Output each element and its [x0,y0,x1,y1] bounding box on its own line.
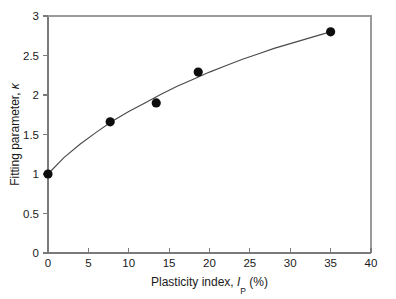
x-tick-label: 35 [324,257,337,269]
y-title-prefix: Fitting parameter, [8,89,22,186]
chart-figure: 0510152025303540 00.511.522.53 Plasticit… [0,0,396,299]
x-tick-label: 5 [85,257,91,269]
y-title-symbol: κ [8,82,22,89]
y-tick-label: 2 [33,89,39,101]
x-tick-label: 40 [365,257,378,269]
y-axis-title: Fitting parameter, κ [8,82,22,186]
data-point [194,67,203,76]
data-point [43,169,52,178]
y-tick-label: 1 [33,168,39,180]
x-title-prefix: Plasticity index, [151,275,237,289]
chart-background [0,0,396,299]
data-point [326,27,335,36]
data-point [152,98,161,107]
y-tick-label: 3 [33,10,39,22]
x-tick-label: 0 [45,257,51,269]
x-title-suffix: (%) [246,275,268,289]
y-tick-label: 0 [33,247,39,259]
x-tick-label: 25 [243,257,256,269]
y-tick-label: 0.5 [23,208,39,220]
x-tick-label: 20 [203,257,216,269]
x-tick-label: 10 [122,257,135,269]
y-tick-label: 1.5 [23,129,39,141]
y-tick-label: 2.5 [23,50,39,62]
plasticity-index-chart: 0510152025303540 00.511.522.53 Plasticit… [0,0,396,299]
data-point [106,117,115,126]
x-tick-label: 30 [284,257,297,269]
y-axis-title-text: Fitting parameter, κ [8,82,22,186]
x-tick-label: 15 [163,257,176,269]
